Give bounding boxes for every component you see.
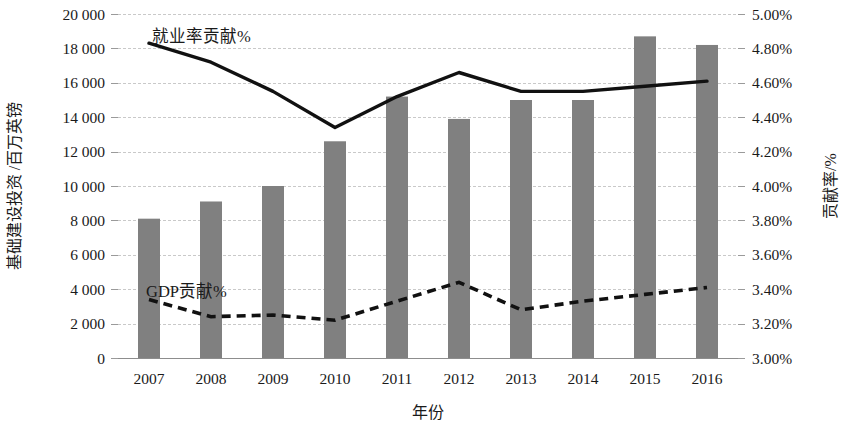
chart-container: 02 0004 0006 0008 00010 00012 00014 0001… [0, 0, 849, 428]
left-tick-label: 2 000 [70, 315, 105, 332]
x-tick-label: 2016 [692, 370, 723, 387]
right-tick-label: 3.40% [752, 281, 792, 298]
right-axis-tickmarks [738, 15, 745, 359]
left-tick-label: 12 000 [62, 143, 105, 160]
bar [696, 45, 718, 358]
bar [572, 100, 594, 358]
gdp-series-annotation: GDP贡献% [146, 282, 227, 301]
bar [386, 97, 408, 358]
right-axis-tick-labels: 3.00%3.20%3.40%3.60%3.80%4.00%4.20%4.40%… [752, 6, 792, 367]
right-tick-label: 5.00% [752, 6, 792, 23]
x-tick-label: 2010 [320, 370, 351, 387]
right-tick-label: 4.80% [752, 40, 792, 57]
right-axis-title: 贡献率/% [822, 153, 839, 219]
x-tick-label: 2008 [196, 370, 227, 387]
x-tick-label: 2014 [568, 370, 599, 387]
x-tick-label: 2011 [382, 370, 412, 387]
right-tick-label: 3.60% [752, 246, 792, 263]
bar [262, 186, 284, 358]
x-tick-label: 2012 [444, 370, 475, 387]
x-axis-tick-labels: 2007200820092010201120122013201420152016 [134, 370, 723, 387]
left-axis-tickmarks [111, 15, 118, 359]
bar [448, 119, 470, 358]
left-tick-label: 8 000 [70, 212, 105, 229]
right-tick-label: 4.40% [752, 109, 792, 126]
employment-series-annotation: 就业率贡献% [152, 27, 251, 46]
right-tick-label: 4.20% [752, 143, 792, 160]
left-tick-label: 20 000 [62, 6, 105, 23]
employment-contribution-line [149, 43, 707, 127]
right-tick-label: 4.00% [752, 178, 792, 195]
bar [200, 201, 222, 358]
x-tick-label: 2015 [630, 370, 661, 387]
right-tick-label: 3.00% [752, 350, 792, 367]
infrastructure-investment-contribution-chart: 02 0004 0006 0008 00010 00012 00014 0001… [0, 0, 849, 428]
left-tick-label: 10 000 [62, 178, 105, 195]
left-tick-label: 16 000 [62, 74, 105, 91]
bar [510, 100, 532, 358]
left-tick-label: 0 [97, 350, 105, 367]
left-axis-title: 基础建设投资 /百万英镑 [6, 102, 23, 270]
right-tick-label: 3.20% [752, 315, 792, 332]
bar [324, 141, 346, 358]
left-axis-tick-labels: 02 0004 0006 0008 00010 00012 00014 0001… [62, 6, 105, 367]
x-tick-label: 2007 [134, 370, 165, 387]
left-tick-label: 6 000 [70, 246, 105, 263]
x-tick-label: 2009 [258, 370, 289, 387]
x-tick-label: 2013 [506, 370, 537, 387]
x-axis-title: 年份 [412, 404, 444, 421]
left-tick-label: 4 000 [70, 281, 105, 298]
left-tick-label: 14 000 [62, 109, 105, 126]
right-tick-label: 4.60% [752, 74, 792, 91]
gdp-contribution-line [149, 282, 707, 320]
left-tick-label: 18 000 [62, 40, 105, 57]
right-tick-label: 3.80% [752, 212, 792, 229]
